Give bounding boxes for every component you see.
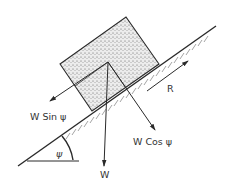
inclined-plane-diagram: W Sin ψ W Cos ψ W R ψ (0, 0, 235, 187)
label-w: W (100, 169, 110, 180)
label-w-sin-psi: W Sin ψ (30, 111, 66, 122)
label-angle-psi: ψ (56, 148, 63, 159)
label-w-cos-psi: W Cos ψ (133, 136, 172, 147)
angle-arc (62, 136, 73, 160)
label-r: R (167, 83, 174, 94)
